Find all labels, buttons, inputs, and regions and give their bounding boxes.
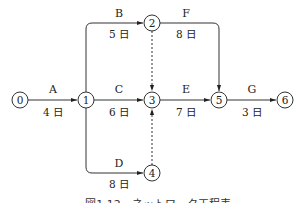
node-2: 2 (144, 15, 160, 31)
svg-text:0: 0 (17, 94, 24, 106)
node-1: 1 (78, 92, 94, 108)
activity-c-name: C (115, 83, 123, 96)
network-diagram: 0 1 2 3 4 5 6 A 4 日 B 5 日 C 6 日 D 8 日 E … (0, 0, 303, 203)
activity-g-name: G (248, 83, 257, 96)
node-4: 4 (144, 165, 160, 181)
svg-text:6: 6 (282, 94, 289, 106)
svg-text:4: 4 (149, 167, 156, 179)
activity-a-name: A (48, 83, 58, 96)
activity-f-duration: 8 日 (176, 28, 196, 40)
svg-text:5: 5 (216, 94, 223, 106)
activity-g-duration: 3 日 (242, 106, 262, 118)
activity-e-name: E (182, 83, 190, 96)
activity-d-duration: 8 日 (109, 178, 129, 190)
activity-b-name: B (115, 7, 123, 20)
activity-a-duration: 4 日 (43, 106, 63, 118)
activity-b-duration: 5 日 (109, 28, 129, 40)
activity-e-duration: 7 日 (176, 106, 196, 118)
svg-text:1: 1 (83, 94, 90, 106)
figure-caption: 図1.12 ネットワーク工程表 (85, 197, 231, 203)
activity-f-name: F (182, 7, 190, 20)
svg-text:2: 2 (149, 17, 156, 29)
node-3: 3 (144, 92, 160, 108)
node-5: 5 (211, 92, 227, 108)
node-0: 0 (12, 92, 28, 108)
node-6: 6 (277, 92, 293, 108)
activity-c-duration: 6 日 (109, 106, 129, 118)
svg-text:3: 3 (149, 94, 156, 106)
activity-d-name: D (115, 157, 124, 170)
